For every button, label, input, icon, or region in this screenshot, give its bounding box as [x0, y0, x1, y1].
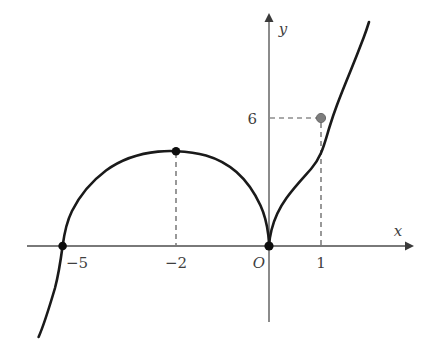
curve-left-branch	[39, 151, 269, 337]
tick-label-x-one: 1	[316, 254, 326, 272]
tick-label-y-six: 6	[247, 110, 257, 128]
x-axis-label: x	[394, 222, 403, 240]
x-axis-arrowhead	[405, 242, 414, 251]
labels-group: −5 −2 O 1 6 x y	[66, 20, 403, 272]
marked-points-group	[58, 113, 325, 250]
origin-label: O	[253, 254, 265, 272]
y-axis-arrowhead	[265, 13, 274, 22]
point-x-intercept-neg5	[58, 242, 67, 251]
tick-label-x-neg5: −5	[66, 254, 88, 272]
curve-group	[39, 22, 369, 337]
curve-right-branch	[269, 22, 369, 246]
point-origin-cusp	[264, 241, 273, 250]
math-figure: −5 −2 O 1 6 x y	[0, 0, 444, 343]
point-local-maximum-neg2	[172, 147, 181, 156]
point-one-six	[316, 113, 325, 122]
y-axis-label: y	[278, 20, 288, 38]
function-graph-svg: −5 −2 O 1 6 x y	[0, 0, 444, 343]
tick-label-x-neg2: −2	[165, 254, 187, 272]
